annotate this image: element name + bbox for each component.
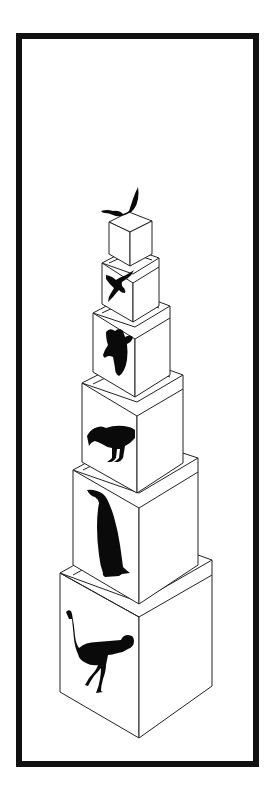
flying-bird-icon: [101, 187, 139, 216]
bird-box-tower: [0, 0, 275, 798]
box-top: [101, 187, 152, 266]
